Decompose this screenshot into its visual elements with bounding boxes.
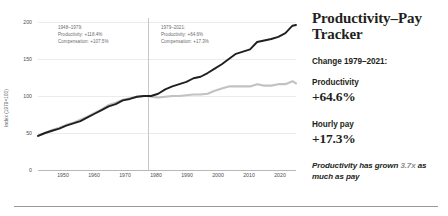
- bottom-divider: [14, 206, 438, 207]
- stat-hourly-pay-value: +17.3%: [312, 131, 448, 147]
- x-tick-2010: 2010: [243, 172, 255, 178]
- productivity-pay-tracker-figure: Index (1979=100) 200 150 100 50 0 1948–1…: [0, 0, 448, 216]
- stat-productivity-label: Productivity: [312, 78, 448, 87]
- x-tick-1990: 1990: [181, 172, 193, 178]
- panel-title: Productivity–Pay Tracker: [312, 10, 448, 42]
- x-tick-1950: 1950: [57, 172, 69, 178]
- x-axis-ticks: 1950 1960 1970 1980 1990 2000 2010 2020: [0, 172, 300, 186]
- footnote: Productivity has grown 3.7x as much as p…: [312, 161, 448, 182]
- productivity-line: [38, 25, 296, 136]
- summary-panel: Productivity–Pay Tracker Change 1979–202…: [306, 0, 448, 200]
- stat-productivity-value: +64.6%: [312, 89, 448, 105]
- x-tick-1980: 1980: [150, 172, 162, 178]
- x-tick-1960: 1960: [88, 172, 100, 178]
- stat-hourly-pay-label: Hourly pay: [312, 120, 448, 129]
- footnote-multiplier: 3.7x: [400, 161, 415, 170]
- x-tick-2000: 2000: [212, 172, 224, 178]
- chart-area: Index (1979=100) 200 150 100 50 0 1948–1…: [0, 0, 300, 200]
- stat-productivity: Productivity +64.6%: [312, 78, 448, 105]
- x-tick-1970: 1970: [119, 172, 131, 178]
- change-period-label: Change 1979–2021:: [312, 57, 387, 66]
- stat-hourly-pay: Hourly pay +17.3%: [312, 120, 448, 147]
- chart-lines: [0, 0, 300, 200]
- x-tick-2020: 2020: [274, 172, 286, 178]
- footnote-pre: Productivity has grown: [312, 161, 400, 170]
